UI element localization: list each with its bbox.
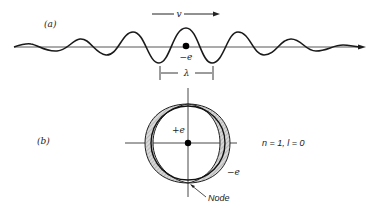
panel-b-label: (b) [37,136,50,146]
panel-a-label: (a) [44,19,57,29]
nucleus-label: +e [172,125,185,135]
wavelength-label: λ [183,68,190,78]
electron-label: −e [227,167,240,177]
velocity-arrow [152,12,220,17]
figure: (a) v −e λ (b) [0,0,373,210]
electron-dot [183,43,190,50]
velocity-label: v [176,9,181,19]
quantum-numbers-label: n = 1, l = 0 [262,138,305,148]
nucleus-dot [185,140,191,146]
node-label: Node [208,193,230,203]
panel-b: (b) +e −e n = 1, l = 0 Node [37,88,305,203]
charge-label: −e [180,52,193,62]
orbit-wave-right [188,104,230,183]
panel-a: (a) v −e λ [14,9,366,80]
